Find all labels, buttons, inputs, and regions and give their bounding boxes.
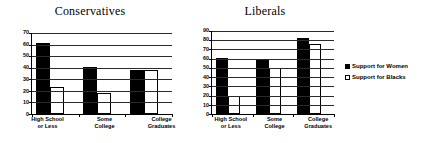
gridline [32,56,172,57]
gridline [212,49,334,50]
gridline [32,45,172,46]
bars-layer-liberals [212,31,334,114]
gridline [32,79,172,80]
legend-label: Support for Women [352,63,408,69]
y-axis-labels-liberals: 0102030405060708090 [192,31,211,115]
gridline [212,105,334,106]
legend-label: Support for Blacks [352,74,406,80]
y-tickmark [209,49,212,50]
y-tickmark [209,77,212,78]
x-tickmark [79,114,80,117]
x-category-label: High Schoolor Less [31,116,64,129]
gridline [212,31,334,32]
figure-root: Conservatives 010203040506070 High Schoo… [0,0,430,143]
y-tickmark [209,96,212,97]
bar-group [293,31,334,114]
gridline [212,77,334,78]
x-category-label: CollegeGraduates [304,116,332,129]
bar [269,68,281,114]
y-tickmark [29,102,32,103]
x-category-label: SomeCollege [264,116,284,129]
gridline [32,102,172,103]
bar [130,70,144,114]
y-tickmark [209,105,212,106]
legend-swatch-icon [345,64,350,69]
x-category-label-line: Graduates [304,123,332,130]
x-tickmark [293,114,294,117]
x-category-label: SomeCollege [94,116,114,129]
y-tickmark [209,68,212,69]
x-category-label-line: College [94,123,114,130]
x-tickmark [125,114,126,117]
x-category-label-line: College [264,123,284,130]
y-tickmark [209,59,212,60]
gridline [32,33,172,34]
x-category-label-line: Graduates [148,123,176,130]
y-tickmark [29,33,32,34]
bar [144,70,158,114]
legend-item: Support for Blacks [345,74,408,80]
y-tickmark [209,86,212,87]
y-tickmark [209,40,212,41]
x-category-label-line: College [148,116,176,123]
x-category-label-line: Some [264,116,284,123]
x-tickmark [212,114,213,117]
gridline [212,59,334,60]
x-category-label: High Schoolor Less [215,116,248,129]
bar-group [253,31,294,114]
legend-swatch-icon [345,75,350,80]
x-category-label: CollegeGraduates [148,116,176,129]
x-category-label-line: College [304,116,332,123]
gridline [212,40,334,41]
gridline [212,96,334,97]
bar [97,93,111,114]
gridline [212,68,334,69]
y-tickmark [209,31,212,32]
plot-area-conservatives [31,33,172,115]
x-tickmark [253,114,254,117]
chart-title-conservatives: Conservatives [0,4,185,19]
y-tickmark [29,45,32,46]
x-category-label-line: or Less [215,123,248,130]
bar-group [212,31,253,114]
legend: Support for WomenSupport for Blacks [345,63,408,85]
bar [309,44,321,114]
x-category-label-line: Some [94,116,114,123]
gridline [32,91,172,92]
plot-wrap-conservatives: 010203040506070 [12,33,172,115]
y-tickmark [29,68,32,69]
y-tickmark [29,91,32,92]
chart-panel-liberals: Liberals 0102030405060708090 High School… [190,0,340,143]
legend-item: Support for Women [345,63,408,69]
chart-title-liberals: Liberals [190,4,340,19]
chart-panel-conservatives: Conservatives 010203040506070 High Schoo… [0,0,190,143]
x-category-label-line: High School [215,116,248,123]
gridline [212,86,334,87]
plot-wrap-liberals: 0102030405060708090 [192,31,334,115]
y-tickmark [29,79,32,80]
y-tickmark [29,56,32,57]
x-category-label-line: High School [31,116,64,123]
plot-area-liberals [211,31,334,115]
gridline [32,68,172,69]
x-tickmark [334,114,335,117]
x-category-label-line: or Less [31,123,64,130]
